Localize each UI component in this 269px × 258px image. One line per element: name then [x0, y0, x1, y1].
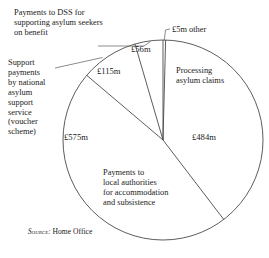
slice-label-nass-voucher: Support payments by national asylum supp…	[8, 58, 56, 137]
slice-value-local-authorities: £575m	[64, 132, 88, 142]
source-prefix: Source:	[28, 228, 51, 236]
slice-boundary-local-nass	[87, 75, 163, 140]
pie-chart: Payments to DSS for supporting asylum se…	[0, 0, 269, 258]
slice-value-processing: £484m	[192, 132, 216, 142]
slice-label-dss-benefit: Payments to DSS for supporting asylum se…	[14, 8, 142, 38]
source-note: Source: Home Office	[28, 227, 92, 236]
slice-label-local-authorities: Payments to local authorities for accomm…	[103, 168, 199, 208]
slice-value-dss-benefit: £56m	[131, 44, 151, 54]
slice-boundary-nass-dss	[135, 44, 163, 140]
leader-line-other	[164, 29, 170, 41]
slice-value-nass-voucher: £115m	[97, 66, 121, 76]
slice-label-other: £5m other	[172, 25, 242, 35]
source-value: Home Office	[53, 227, 93, 236]
slice-label-processing-asylum-claims: Processing asylum claims	[176, 66, 246, 86]
